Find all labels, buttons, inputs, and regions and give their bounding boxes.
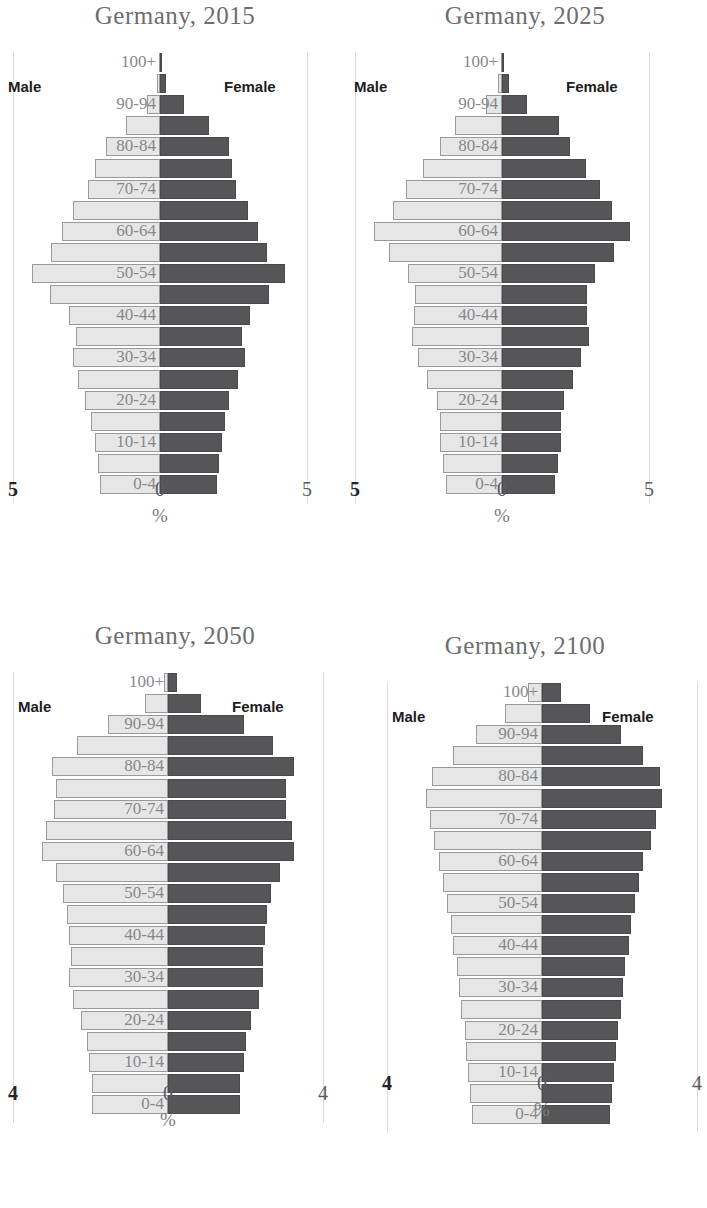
pyramid-row xyxy=(0,453,350,474)
pyramid-row xyxy=(0,735,350,756)
bar-female xyxy=(168,863,280,882)
bar-male xyxy=(78,370,160,389)
bar-female xyxy=(168,673,177,692)
bar-female xyxy=(160,137,229,156)
x-tick-left: 4 xyxy=(0,1082,33,1105)
bar-male xyxy=(406,180,502,199)
bar-male xyxy=(76,327,160,346)
pyramid-row xyxy=(350,326,700,347)
bar-female xyxy=(160,95,184,114)
bar-male xyxy=(412,327,502,346)
pyramid-row xyxy=(350,788,700,809)
bar-female xyxy=(502,370,573,389)
bar-female xyxy=(160,180,236,199)
bar-female xyxy=(542,873,639,892)
pyramid-row xyxy=(350,52,700,73)
legend-label-female: Female xyxy=(224,78,276,95)
pyramid-row xyxy=(0,799,350,820)
bar-male xyxy=(389,243,502,262)
bar-male xyxy=(87,1032,168,1051)
pyramid-row xyxy=(350,432,700,453)
bar-female xyxy=(502,201,612,220)
x-axis-unit-label: % xyxy=(477,505,527,527)
x-tick-center: 0 xyxy=(522,1072,562,1095)
bar-female xyxy=(542,978,623,997)
pyramid-row xyxy=(0,967,350,988)
bar-male xyxy=(440,433,502,452)
pyramid-row xyxy=(0,94,350,115)
bar-male xyxy=(91,412,160,431)
bar-male xyxy=(408,264,502,283)
bar-female xyxy=(502,159,586,178)
bar-female xyxy=(160,222,258,241)
pyramid-row xyxy=(0,115,350,136)
bar-female xyxy=(542,831,651,850)
panel-germany-2015: Germany, 2015100+90-9480-8470-7460-6450-… xyxy=(0,0,350,604)
bar-male xyxy=(427,370,502,389)
pyramid-row xyxy=(0,263,350,284)
chart-title: Germany, 2015 xyxy=(0,2,350,30)
bar-male xyxy=(62,222,160,241)
bar-female xyxy=(502,285,587,304)
pyramid-row xyxy=(0,693,350,714)
pyramid-row xyxy=(350,977,700,998)
pyramid-row xyxy=(0,672,350,693)
pyramid-row xyxy=(350,263,700,284)
pyramid-row xyxy=(0,52,350,73)
pyramid-row xyxy=(350,369,700,390)
bar-female xyxy=(502,116,559,135)
pyramid-row xyxy=(350,851,700,872)
bar-male xyxy=(73,990,168,1009)
bar-male xyxy=(466,1042,542,1061)
x-axis-unit-label: % xyxy=(135,505,185,527)
bar-male xyxy=(108,715,168,734)
bar-male xyxy=(46,821,168,840)
bar-male xyxy=(459,978,542,997)
bar-female xyxy=(502,95,527,114)
bar-female xyxy=(168,694,201,713)
panel-germany-2100: Germany, 2100100+90-9480-8470-7460-6450-… xyxy=(350,604,700,1208)
bar-female xyxy=(542,810,656,829)
pyramid-row xyxy=(0,756,350,777)
bar-female xyxy=(542,936,629,955)
pyramid-row xyxy=(0,946,350,967)
bar-male xyxy=(439,852,542,871)
bar-female xyxy=(168,968,263,987)
pyramid-row xyxy=(0,883,350,904)
pyramid-row xyxy=(350,136,700,157)
pyramid-row xyxy=(0,73,350,94)
pyramid-row xyxy=(350,724,700,745)
pyramid-row xyxy=(0,778,350,799)
bar-male xyxy=(89,1053,168,1072)
bar-female xyxy=(502,222,630,241)
x-tick-right: 5 xyxy=(629,478,669,501)
bar-female xyxy=(542,725,621,744)
pyramid-row xyxy=(350,893,700,914)
bar-male xyxy=(505,704,542,723)
legend-label-male: Male xyxy=(8,78,41,95)
x-tick-center: 0 xyxy=(148,1082,188,1105)
bar-female xyxy=(168,715,244,734)
bar-female xyxy=(502,412,561,431)
bar-female xyxy=(160,391,229,410)
pyramid-row xyxy=(350,766,700,787)
pyramid-row xyxy=(350,999,700,1020)
pyramid-row xyxy=(0,1052,350,1073)
bar-male xyxy=(486,95,502,114)
panel-germany-2050: Germany, 2050100+90-9480-8470-7460-6450-… xyxy=(0,604,350,1208)
pyramid-row xyxy=(350,94,700,115)
pyramid-row xyxy=(0,862,350,883)
bar-male xyxy=(71,947,168,966)
bar-female xyxy=(168,947,263,966)
pyramid-row xyxy=(0,369,350,390)
legend-label-female: Female xyxy=(232,698,284,715)
bar-male xyxy=(126,116,160,135)
bar-female xyxy=(502,74,509,93)
pyramid-row xyxy=(350,284,700,305)
bar-male xyxy=(440,137,502,156)
bar-male xyxy=(69,306,160,325)
bar-male xyxy=(95,433,160,452)
bar-female xyxy=(168,1011,251,1030)
x-tick-left: 5 xyxy=(335,478,375,501)
